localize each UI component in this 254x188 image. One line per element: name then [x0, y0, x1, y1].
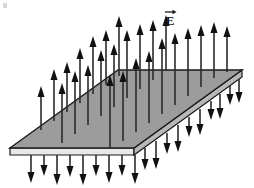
electric-field-plane-figure: E: [0, 0, 254, 188]
scan-artifact-mark: [3, 3, 7, 8]
field-label-E: E: [166, 13, 175, 28]
plane-front-thickness-edge: [10, 148, 134, 155]
figure-canvas: E: [0, 0, 254, 188]
